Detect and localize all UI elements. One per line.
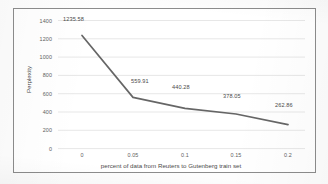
xtick-label-02: 0.2 — [268, 152, 308, 158]
xtick-label-005: 0.05 — [113, 152, 153, 158]
ytick-label-200: 200 — [22, 127, 52, 133]
x-axis-title: percent of data from Reuters to Gutenber… — [38, 162, 304, 169]
ytick-label-1400: 1400 — [22, 18, 52, 24]
data-label-point-3: 378.05 — [223, 93, 241, 99]
y-axis-title: Perplexity — [25, 50, 32, 110]
series-line — [82, 36, 288, 125]
xtick-label-0: 0 — [62, 152, 102, 158]
data-label-point-1: 559.91 — [131, 78, 149, 84]
xtick-label-01: 0.1 — [165, 152, 205, 158]
ytick-label-0: 0 — [22, 146, 52, 152]
xtick-label-015: 0.15 — [216, 152, 256, 158]
figure-canvas: 1400 1200 1000 800 600 400 200 0 0 0.05 … — [0, 0, 328, 184]
data-label-point-0: 1235.58 — [63, 16, 84, 22]
data-label-point-4: 262.86 — [275, 102, 293, 108]
ytick-label-1200: 1200 — [22, 36, 52, 42]
data-label-point-2: 440.28 — [172, 84, 190, 90]
ytick-label-400: 400 — [22, 109, 52, 115]
